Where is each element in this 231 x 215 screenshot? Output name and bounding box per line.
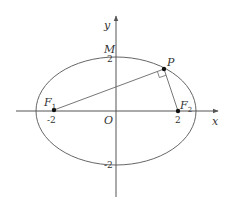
tick-y-2: 2 (107, 54, 113, 64)
point-f1-label: F1 (43, 96, 56, 111)
point-f2-label: F2 (179, 99, 192, 114)
origin-label: O (104, 114, 113, 127)
y-axis-label: y (103, 19, 111, 32)
tick-y-neg2: -2 (104, 160, 113, 170)
tick-x-neg2: -2 (47, 115, 56, 125)
x-axis-label: x (212, 115, 219, 128)
segment-f1-p (54, 69, 164, 110)
point-p (162, 67, 166, 71)
ellipse-diagram: y x O M P F1 F2 -2 2 2 -2 (0, 0, 231, 215)
point-p-label: P (166, 56, 175, 69)
tick-x-2: 2 (175, 115, 181, 125)
